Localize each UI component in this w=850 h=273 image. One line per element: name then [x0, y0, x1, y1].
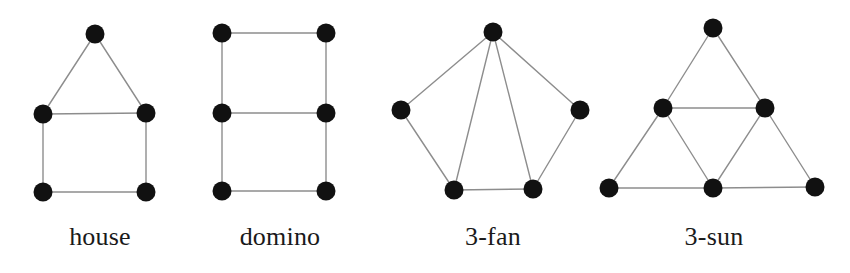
graph-node	[445, 181, 464, 200]
graph-edge	[43, 34, 95, 114]
graph-edge	[493, 32, 533, 189]
graph-node	[392, 101, 411, 120]
graph-node	[600, 179, 619, 198]
graph-edge	[401, 32, 493, 110]
graph-figure: house domino 3-fan 3-sun	[0, 0, 850, 273]
graph-node	[213, 24, 232, 43]
graph-node	[213, 104, 232, 123]
graph-edge	[533, 110, 580, 189]
graph-node	[137, 183, 156, 202]
graph-edge	[493, 32, 580, 110]
graph-node	[34, 183, 53, 202]
graph-caption-house: house	[40, 222, 160, 252]
graph-edge	[663, 108, 713, 188]
graph-caption-3-fan: 3-fan	[433, 222, 553, 252]
graph-edge	[765, 108, 815, 187]
graph-node	[317, 24, 336, 43]
graph-node	[137, 104, 156, 123]
graph-caption-3-sun: 3-sun	[654, 222, 774, 252]
graph-edge	[95, 34, 146, 113]
graph-edge	[663, 28, 713, 108]
graph-edge	[454, 32, 493, 190]
graph-node	[756, 99, 775, 118]
graph-node	[213, 182, 232, 201]
graph-node	[704, 179, 723, 198]
graph-node	[654, 99, 673, 118]
graph-node	[86, 25, 105, 44]
graph-node	[524, 180, 543, 199]
graph-node	[317, 104, 336, 123]
graph-edge	[609, 108, 663, 188]
graph-node	[571, 101, 590, 120]
graph-edge	[713, 28, 765, 108]
graph-edge	[713, 108, 765, 188]
graph-caption-domino: domino	[215, 222, 345, 252]
graph-node	[317, 182, 336, 201]
graph-node	[484, 23, 503, 42]
graph-edge	[713, 187, 815, 188]
graph-node	[34, 105, 53, 124]
graph-edge	[43, 113, 146, 114]
nodes-layer	[34, 19, 825, 202]
graph-edge	[454, 189, 533, 190]
edges-layer	[43, 28, 815, 192]
graph-node	[704, 19, 723, 38]
graph-edge	[401, 110, 454, 190]
graph-node	[806, 178, 825, 197]
